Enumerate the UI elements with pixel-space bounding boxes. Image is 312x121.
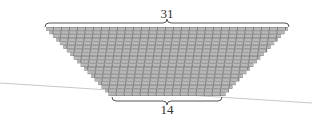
- top-width-label: 31: [147, 7, 187, 20]
- brick-wall: [46, 27, 288, 96]
- bottom-width-label: 14: [147, 103, 187, 116]
- diagram-canvas: 31 14: [0, 0, 312, 121]
